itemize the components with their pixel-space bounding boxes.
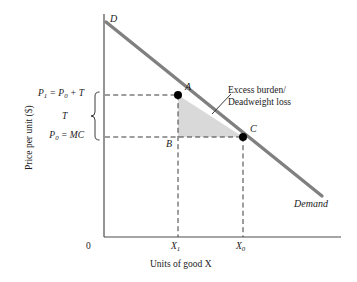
demand-curve-end-label: Demand [294, 198, 328, 210]
x1-subscript: 1 [177, 245, 180, 252]
annotation-line-2: Deadweight loss [228, 96, 291, 108]
deadweight-loss-annotation: Excess burden/ Deadweight loss [228, 84, 291, 108]
p1-rest: = P [47, 88, 64, 98]
point-c-dot [239, 133, 247, 141]
x-tick-label-x0: X0 [236, 241, 245, 252]
demand-curve [106, 22, 322, 196]
y-axis-title: Price per unit ($) [24, 105, 35, 170]
deadweight-loss-figure: Price per unit ($) Units of good X P1 = … [0, 0, 357, 282]
x0-subscript: 0 [242, 245, 245, 252]
point-a-dot [174, 91, 182, 99]
point-label-a: A [185, 81, 191, 93]
point-label-b: B [166, 138, 172, 150]
demand-curve-top-label: D [110, 13, 117, 25]
x-tick-label-x1: X1 [171, 241, 180, 252]
x-axis-title: Units of good X [150, 259, 212, 270]
annotation-line-1: Excess burden/ [228, 84, 291, 96]
tax-brace-label: T [62, 111, 67, 122]
tax-brace [91, 92, 100, 140]
point-label-c: C [250, 123, 257, 135]
y-tick-label-p0: P0 = MC [49, 130, 84, 141]
origin-label: 0 [86, 241, 91, 252]
p0-rest: = MC [59, 130, 84, 140]
y-tick-label-p1: P1 = P0 + T [38, 88, 84, 99]
p1-tail: + T [68, 88, 84, 98]
